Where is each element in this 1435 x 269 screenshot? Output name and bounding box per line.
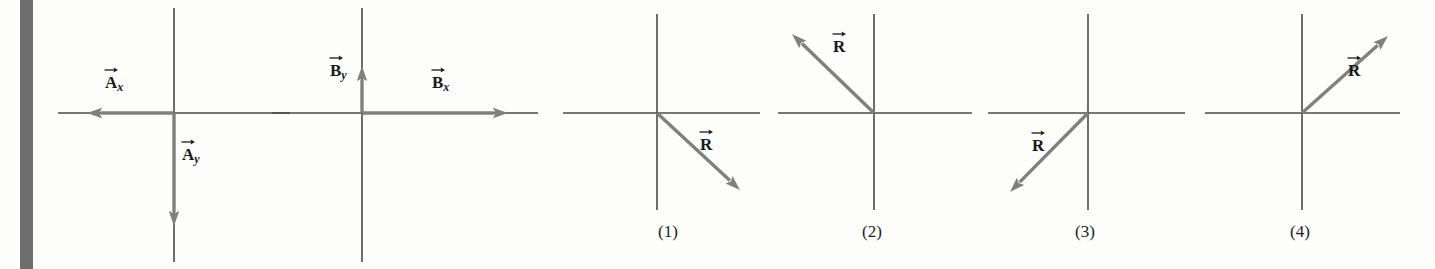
option-1-R-vector-label: R: [700, 136, 712, 153]
option-4-R-vector: [1302, 36, 1388, 113]
vector-letter: R: [1348, 62, 1360, 79]
vector-letter: B: [432, 74, 443, 91]
vector-letter: R: [700, 136, 712, 153]
option-3-R-vector-label: R: [1032, 137, 1044, 154]
resultant-option-1-caption: (1): [648, 222, 688, 242]
panel-b-B-x-component: [362, 108, 508, 118]
vector-letter: A: [182, 146, 194, 163]
vector-subscript: y: [194, 152, 199, 166]
resultant-option-3-caption: (3): [1065, 222, 1105, 242]
vector-shaft: [1020, 113, 1088, 182]
panel-b-B-x-component-label: Bx: [432, 74, 449, 93]
vector-letter: R: [833, 38, 845, 55]
vector-shaft: [1302, 45, 1378, 113]
option-4-R-vector-label: R: [1348, 62, 1360, 79]
vector-subscript: x: [117, 80, 123, 94]
vector-subscript: x: [443, 80, 449, 94]
panel-b-B-y-component: [357, 66, 367, 113]
vector-graphics: [0, 0, 1435, 269]
panel-b-B-y-component-label: By: [330, 62, 347, 81]
vector-letter: B: [330, 62, 341, 79]
panel-a-A-x-component-label: Ax: [105, 74, 123, 93]
option-1-R-vector: [657, 113, 740, 190]
resultant-option-4-caption: (4): [1280, 222, 1320, 242]
vector-b-components-axes: [272, 8, 538, 262]
option-3-R-vector: [1010, 113, 1088, 192]
panel-a-A-y-component-label: Ay: [182, 146, 200, 165]
vector-subscript: y: [341, 68, 346, 82]
option-2-R-vector-label: R: [833, 38, 845, 55]
resultant-option-1-axes: [563, 14, 760, 210]
vector-letter: A: [105, 74, 117, 91]
figure-canvas: AxAyByBxR(1)R(2)R(3)R(4): [0, 0, 1435, 269]
panel-a-A-y-component: [169, 113, 179, 226]
vector-letter: R: [1032, 137, 1044, 154]
resultant-option-2-caption: (2): [852, 222, 892, 242]
vector-shaft: [657, 113, 730, 181]
resultant-option-2-axes: [778, 14, 972, 210]
